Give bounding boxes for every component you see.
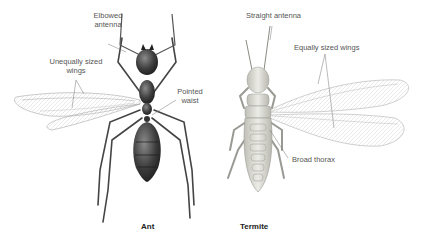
caption-ant: Ant bbox=[141, 222, 154, 231]
ant-waist bbox=[144, 116, 150, 122]
caption-termite: Termite bbox=[240, 222, 268, 231]
label-line: Elbowed bbox=[86, 11, 130, 20]
ant-wings bbox=[14, 93, 140, 130]
label-unequally-sized-wings: Unequally sized wings bbox=[48, 57, 104, 75]
label-line: waist bbox=[174, 96, 206, 105]
termite-antennae bbox=[246, 26, 270, 70]
ant-abdomen bbox=[133, 122, 160, 182]
ant-termite-diagram: Elbowed antenna Unequally sized wings Po… bbox=[0, 0, 421, 243]
termite-wings bbox=[270, 80, 409, 146]
termite-thorax bbox=[245, 106, 271, 118]
label-line: antenna bbox=[86, 20, 130, 29]
termite-head bbox=[247, 67, 269, 93]
ant-illustration bbox=[14, 14, 194, 222]
label-broad-thorax: Broad thorax bbox=[292, 155, 335, 164]
label-straight-antenna: Straight antenna bbox=[246, 11, 301, 20]
label-equally-sized-wings: Equally sized wings bbox=[294, 43, 359, 52]
label-line: Unequally sized bbox=[48, 57, 104, 66]
illustration bbox=[0, 0, 421, 243]
label-elbowed-antenna: Elbowed antenna bbox=[86, 11, 130, 29]
label-pointed-waist: Pointed waist bbox=[174, 87, 206, 105]
ant-head bbox=[136, 49, 158, 75]
label-line: Pointed bbox=[174, 87, 206, 96]
ant-thorax bbox=[139, 80, 155, 104]
label-line: wings bbox=[48, 66, 104, 75]
